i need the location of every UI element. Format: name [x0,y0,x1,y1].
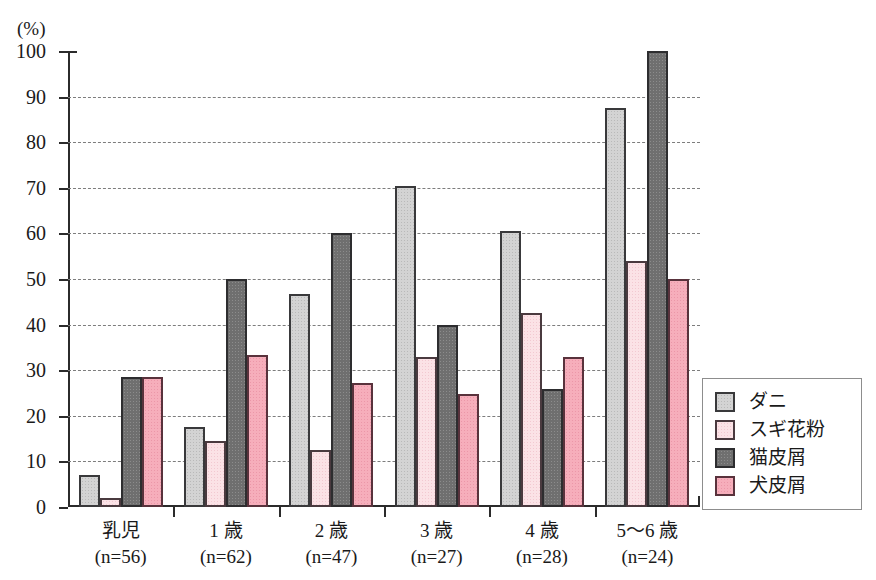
bar [416,357,437,507]
legend-swatch-icon [715,476,735,496]
y-axis-tick: 30 [59,370,68,372]
allergen-sensitization-bar-chart: (%) 0102030405060708090100 乳児(n=56)1 歳(n… [0,0,876,580]
bar [331,233,352,507]
y-axis-tick: 80 [59,142,68,144]
bar [184,427,205,507]
bar [142,377,163,507]
y-axis-tick-label: 70 [0,177,46,199]
legend-swatch-icon [715,392,735,412]
y-axis-tick: 0 [59,507,68,509]
legend-item-label: 猫皮屑 [749,448,806,468]
bar [437,325,458,507]
y-axis-tick-label: 90 [0,86,46,108]
bar [100,498,121,507]
plot-area: 0102030405060708090100 [68,51,700,507]
bar [647,51,668,507]
bar [563,357,584,507]
x-axis-tick [173,507,175,517]
x-axis-tick [595,507,597,517]
y-axis-tick-label: 40 [0,314,46,336]
bar [521,313,542,507]
y-axis-tick-label: 100 [0,40,46,62]
category-name: 5〜6 歳 [585,518,710,544]
legend-item-label: スギ花粉 [749,420,825,440]
bar [605,108,626,507]
y-axis-tick-label: 50 [0,268,46,290]
y-axis-top-tick [68,51,77,53]
legend-item: スギ花粉 [715,416,851,444]
y-axis-tick: 90 [59,97,68,99]
bar [542,389,563,507]
y-axis-tick-label: 20 [0,405,46,427]
y-axis-tick: 60 [59,233,68,235]
bar [247,355,268,507]
legend-item: 犬皮屑 [715,472,851,500]
y-axis-tick: 20 [59,416,68,418]
y-axis-tick: 100 [59,51,68,53]
y-axis-unit-label: (%) [17,18,45,40]
x-axis-end-tick [698,496,700,507]
legend-item: ダニ [715,388,851,416]
bar [205,441,226,507]
legend-item-label: 犬皮屑 [749,476,806,496]
legend-swatch-icon [715,420,735,440]
x-axis-tick [279,507,281,517]
y-axis-tick: 40 [59,325,68,327]
y-axis-tick-label: 0 [0,496,46,518]
y-axis-tick: 10 [59,461,68,463]
y-axis-tick: 70 [59,188,68,190]
bar [289,294,310,507]
bar [500,231,521,507]
bar [626,261,647,507]
x-axis-tick [489,507,491,517]
bar [668,279,689,507]
y-axis-tick-label: 60 [0,222,46,244]
legend-item-label: ダニ [749,392,787,412]
bar [352,383,373,507]
bar [79,475,100,507]
gridline [68,97,700,98]
bar [121,377,142,507]
legend: ダニスギ花粉猫皮屑犬皮屑 [702,378,862,510]
y-axis-tick-label: 30 [0,359,46,381]
bar [395,186,416,507]
x-axis-tick [384,507,386,517]
legend-swatch-icon [715,448,735,468]
category-sample-size: (n=24) [585,544,710,570]
bar [310,450,331,507]
y-axis-tick-label: 10 [0,450,46,472]
bar [226,279,247,507]
y-axis-tick: 50 [59,279,68,281]
bar [458,394,479,507]
legend-item: 猫皮屑 [715,444,851,472]
y-axis-tick-label: 80 [0,131,46,153]
x-axis-category-label: 5〜6 歳(n=24) [585,518,710,570]
